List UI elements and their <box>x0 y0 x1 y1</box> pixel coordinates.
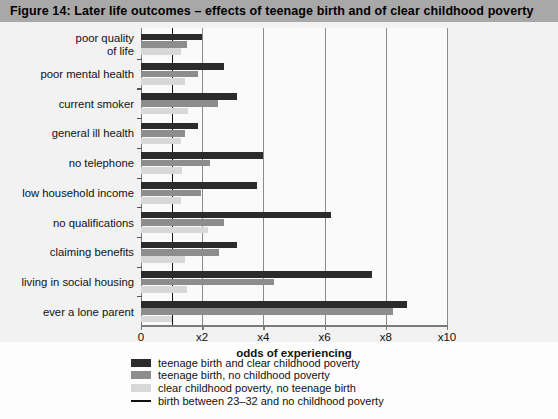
bar-8-series-0 <box>141 271 372 278</box>
x-tick-0 <box>141 325 142 330</box>
y-minor-tick <box>137 88 142 89</box>
bar-1-series-0 <box>141 63 224 70</box>
y-minor-tick <box>137 148 142 149</box>
bar-0-series-0 <box>141 34 202 41</box>
legend-item-0: teenage birth and clear childhood povert… <box>131 357 551 368</box>
bar-9-series-0 <box>141 301 407 308</box>
category-label-9: ever a lone parent <box>0 306 134 318</box>
bar-4-series-0 <box>141 152 263 159</box>
figure-title-bar: Figure 14: Later life outcomes – effects… <box>0 0 558 22</box>
x-tick-label-6: x6 <box>319 331 331 343</box>
legend-swatch-poverty-no-teen-birth <box>131 384 151 392</box>
bar-3-series-0 <box>141 123 198 130</box>
y-minor-tick <box>137 118 142 119</box>
y-minor-tick <box>137 178 142 179</box>
category-label-8: living in social housing <box>0 276 134 288</box>
bar-6-series-0 <box>141 212 331 219</box>
legend-item-3: birth between 23–32 and no childhood pov… <box>131 395 551 406</box>
bar-8-series-2 <box>141 286 187 293</box>
x-tick-6 <box>325 325 326 330</box>
y-minor-tick <box>137 267 142 268</box>
x-tick-label-2: x2 <box>196 331 208 343</box>
x-tick-label-10: x10 <box>438 331 457 343</box>
bar-7-series-1 <box>141 249 219 256</box>
bar-6-series-1 <box>141 219 224 226</box>
category-label-4: no telephone <box>0 157 134 169</box>
legend-swatch-teen-birth-poverty <box>131 359 151 367</box>
x-tick-10 <box>447 325 448 330</box>
category-label-0: poor quality of life <box>0 32 134 56</box>
bar-9-series-1 <box>141 308 393 315</box>
category-label-5: low household income <box>0 187 134 199</box>
figure-title: Figure 14: Later life outcomes – effects… <box>0 4 533 18</box>
bar-8-series-1 <box>141 279 274 286</box>
bar-1-series-1 <box>141 71 198 78</box>
legend-swatch-teen-birth-no-poverty <box>131 371 151 379</box>
bar-9-series-2 <box>141 316 172 323</box>
bar-2-series-1 <box>141 100 218 107</box>
category-label-6: no qualifications <box>0 217 134 229</box>
bar-0-series-2 <box>141 48 181 55</box>
category-label-1: poor mental health <box>0 68 134 80</box>
y-minor-tick <box>137 237 142 238</box>
legend-item-1: teenage birth, no childhood poverty <box>131 370 551 381</box>
legend-label-2: clear childhood poverty, no teenage birt… <box>158 382 356 394</box>
legend-label-3: birth between 23–32 and no childhood pov… <box>158 395 384 407</box>
chart-plot-area: odds of experiencing 0x2x4x6x8x10poor qu… <box>0 22 558 342</box>
x-tick-2 <box>202 325 203 330</box>
gridline-x6 <box>325 28 326 325</box>
bar-5-series-1 <box>141 190 201 197</box>
bar-5-series-2 <box>141 197 181 204</box>
bar-2-series-0 <box>141 93 237 100</box>
bar-7-series-2 <box>141 256 185 263</box>
x-tick-label-8: x8 <box>380 331 392 343</box>
x-tick-label-0: 0 <box>138 331 144 343</box>
figure-14: Figure 14: Later life outcomes – effects… <box>0 0 558 419</box>
gridline-x8 <box>386 28 387 325</box>
bar-6-series-2 <box>141 227 208 234</box>
gridline-x10 <box>447 28 448 325</box>
bar-3-series-2 <box>141 138 181 145</box>
category-label-3: general ill health <box>0 127 134 139</box>
bar-7-series-0 <box>141 242 237 249</box>
bar-5-series-0 <box>141 182 257 189</box>
x-axis-line <box>141 325 447 327</box>
bar-4-series-1 <box>141 160 210 167</box>
chart-legend: teenage birth and clear childhood povert… <box>131 357 551 408</box>
bar-1-series-2 <box>141 78 185 85</box>
bar-0-series-1 <box>141 41 187 48</box>
legend-label-0: teenage birth and clear childhood povert… <box>158 357 360 369</box>
x-tick-label-4: x4 <box>257 331 269 343</box>
y-minor-tick <box>137 207 142 208</box>
x-tick-8 <box>386 325 387 330</box>
legend-item-2: clear childhood poverty, no teenage birt… <box>131 383 551 394</box>
category-label-7: claiming benefits <box>0 246 134 258</box>
category-label-2: current smoker <box>0 98 134 110</box>
caption-cutoff <box>0 411 558 419</box>
bar-4-series-2 <box>141 167 182 174</box>
x-tick-4 <box>263 325 264 330</box>
bar-3-series-1 <box>141 130 185 137</box>
y-minor-tick <box>137 59 142 60</box>
legend-line-reference <box>131 400 151 402</box>
bar-2-series-2 <box>141 108 188 115</box>
y-minor-tick <box>137 296 142 297</box>
legend-label-1: teenage birth, no childhood poverty <box>158 369 330 381</box>
